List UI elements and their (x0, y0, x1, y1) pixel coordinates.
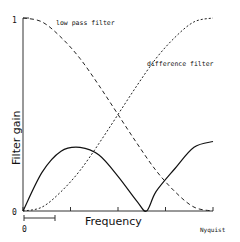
scale-bar (24, 215, 55, 221)
combined-response-curve (23, 142, 213, 212)
difference-filter-curve (23, 18, 213, 211)
x-axis-ticks (23, 207, 213, 211)
low-pass-annotation: low pass filter (56, 19, 115, 27)
x-tick-label-left: 0 (22, 225, 27, 234)
y-tick-label-bottom: 0 (12, 208, 17, 217)
difference-annotation: difference filter (147, 60, 214, 68)
y-tick-label-top: 1 (12, 16, 17, 25)
y-axis-title: Filter gain (10, 110, 23, 165)
x-axis-title: Frequency (85, 215, 142, 228)
x-tick-label-right: Nyquist (200, 226, 226, 234)
filter-gain-chart: 1 0 0 Nyquist Frequency Filter gain low … (0, 0, 240, 242)
